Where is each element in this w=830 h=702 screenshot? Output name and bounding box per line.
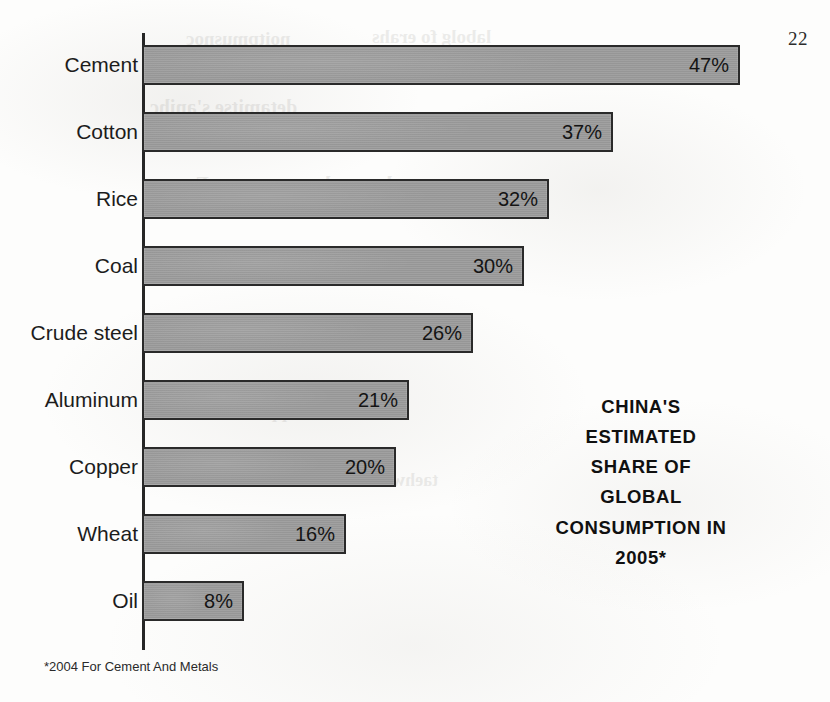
- bar: 21%: [142, 380, 409, 420]
- bar-category-label: Cement: [64, 45, 138, 85]
- bar-category-label: Coal: [95, 246, 138, 286]
- bar-category-label: Wheat: [77, 514, 138, 554]
- bar-texture: [144, 47, 738, 83]
- bar-category-label: Aluminum: [45, 380, 138, 420]
- bar: 16%: [142, 514, 346, 554]
- chart-title-line: 2005*: [512, 543, 770, 573]
- bar-value-label: 30%: [473, 248, 513, 284]
- chart-title-line: SHARE OF: [512, 452, 770, 482]
- chart-title-line: CHINA'S: [512, 392, 770, 422]
- chart-title-block: CHINA'SESTIMATEDSHARE OFGLOBALCONSUMPTIO…: [512, 392, 770, 573]
- bar-value-label: 26%: [422, 315, 462, 351]
- chart-footnote: *2004 For Cement And Metals: [44, 659, 218, 674]
- bar-chart-plot-area: Cement47%Cotton37%Rice32%Coal30%Crude st…: [0, 0, 830, 702]
- bar-category-label: Crude steel: [31, 313, 138, 353]
- bar-row: Rice32%: [0, 179, 830, 219]
- chart-title-line: ESTIMATED: [512, 422, 770, 452]
- bar-row: Crude steel26%: [0, 313, 830, 353]
- bar: 26%: [142, 313, 473, 353]
- bar-category-label: Oil: [112, 581, 138, 621]
- chart-title-line: CONSUMPTION IN: [512, 513, 770, 543]
- bar: 8%: [142, 581, 244, 621]
- bar: 20%: [142, 447, 396, 487]
- chart-page: noitpmusnoclabolg fo erahsdetamitse s'an…: [0, 0, 830, 702]
- chart-title-line: GLOBAL: [512, 482, 770, 512]
- bar-value-label: 37%: [562, 114, 602, 150]
- bar-texture: [144, 248, 522, 284]
- bar-row: Cotton37%: [0, 112, 830, 152]
- bar-row: Oil8%: [0, 581, 830, 621]
- bar: 32%: [142, 179, 549, 219]
- bar: 37%: [142, 112, 613, 152]
- bar-texture: [144, 181, 547, 217]
- bar: 30%: [142, 246, 524, 286]
- bar-texture: [144, 114, 611, 150]
- bar-value-label: 8%: [204, 583, 233, 619]
- bar-value-label: 16%: [295, 516, 335, 552]
- bar-value-label: 47%: [689, 47, 729, 83]
- bar-category-label: Cotton: [76, 112, 138, 152]
- bar-category-label: Copper: [69, 447, 138, 487]
- bar-row: Coal30%: [0, 246, 830, 286]
- bar-value-label: 32%: [498, 181, 538, 217]
- bar-row: Cement47%: [0, 45, 830, 85]
- bar-category-label: Rice: [96, 179, 138, 219]
- bar: 47%: [142, 45, 740, 85]
- bar-value-label: 21%: [358, 382, 398, 418]
- bar-value-label: 20%: [345, 449, 385, 485]
